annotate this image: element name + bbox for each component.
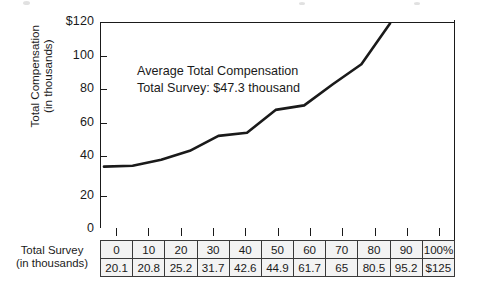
plot-area — [100, 22, 455, 228]
table-cell: 70 — [326, 241, 358, 259]
table-cell: 65 — [326, 259, 358, 277]
x-axis-tick — [310, 228, 311, 236]
plot-right-border — [454, 20, 455, 274]
y-tick-label-40: 40 — [34, 149, 94, 161]
y-tick-label-60: 60 — [34, 116, 94, 128]
annotation-line2: Total Survey: $47.3 thousand — [137, 80, 300, 97]
x-axis-tick — [116, 228, 117, 236]
y-axis-labels: $120 100 80 60 40 20 0 — [30, 0, 94, 230]
x-axis-tick — [181, 228, 182, 236]
chart-figure: Total Compensation (in thousands) $120 1… — [0, 0, 495, 286]
table-cell: 90 — [390, 241, 422, 259]
table-cell: 25.2 — [165, 259, 197, 277]
annotation-line1: Average Total Compensation — [137, 63, 300, 80]
x-axis-tick — [407, 228, 408, 236]
x-axis-tick — [245, 228, 246, 236]
x-axis-tick — [278, 228, 279, 236]
data-line-series — [100, 22, 455, 228]
table-cell: 44.9 — [261, 259, 293, 277]
table-cell: 0 — [101, 241, 133, 259]
x-axis-tick — [375, 228, 376, 236]
table-row-values: 20.1 20.8 25.2 31.7 42.6 44.9 61.7 65 80… — [101, 259, 455, 277]
table-cell: 40 — [229, 241, 261, 259]
x-axis-title: Total Survey (in thousands) — [8, 244, 96, 270]
table-cell: 61.7 — [294, 259, 326, 277]
table-cell: 10 — [133, 241, 165, 259]
chart-annotation: Average Total Compensation Total Survey:… — [137, 63, 300, 96]
table-cell: 30 — [197, 241, 229, 259]
x-axis-tick — [148, 228, 149, 236]
table-cell: 60 — [294, 241, 326, 259]
table-cell: 50 — [261, 241, 293, 259]
table-row-percent: 0 10 20 30 40 50 60 70 80 90 100% — [101, 241, 455, 259]
scan-artifact — [414, 2, 420, 5]
table-cell: 42.6 — [229, 259, 261, 277]
table-cell: 95.2 — [390, 259, 422, 277]
x-axis-tick — [213, 228, 214, 236]
x-axis-tick — [342, 228, 343, 236]
x-axis-tick — [439, 228, 440, 236]
x-axis-title-line2: (in thousands) — [8, 257, 96, 270]
table-cell: 20.1 — [101, 259, 133, 277]
table-cell: $125 — [422, 259, 454, 277]
table-cell: 100% — [422, 241, 454, 259]
y-tick-label-0: 0 — [34, 222, 94, 234]
table-cell: 20.8 — [133, 259, 165, 277]
table-cell: 80.5 — [358, 259, 390, 277]
table-cell: 31.7 — [197, 259, 229, 277]
y-tick-label-120: $120 — [34, 15, 94, 27]
scan-artifact — [299, 2, 305, 5]
y-tick-label-20: 20 — [34, 189, 94, 201]
table-cell: 20 — [165, 241, 197, 259]
x-axis-title-line1: Total Survey — [8, 244, 96, 257]
y-tick-label-100: 100 — [34, 49, 94, 61]
table-cell: 80 — [358, 241, 390, 259]
data-table: 0 10 20 30 40 50 60 70 80 90 100% 20.1 2… — [100, 240, 455, 277]
y-tick-label-80: 80 — [34, 82, 94, 94]
